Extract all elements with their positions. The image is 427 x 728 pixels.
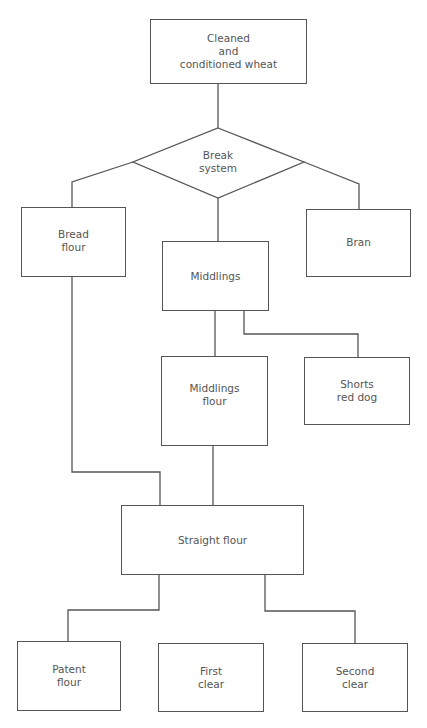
node-shorts-red-dog: Shorts red dog [304,357,410,425]
node-label: Straight flour [178,534,247,547]
node-label: Shorts red dog [337,378,377,404]
connector-middlings-to-shorts [244,310,358,357]
node-break-system-label: Break system [178,149,258,175]
node-label: Second clear [336,665,375,691]
node-label: Bread flour [58,228,89,254]
node-label: Middlings flour [190,382,240,408]
connector-break-to-bran [304,162,359,209]
node-bread-flour: Bread flour [21,207,126,277]
node-straight-flour: Straight flour [121,505,304,575]
connector-straight-to-second-clear [265,574,355,643]
connector-break-to-bread-flour [72,162,133,207]
node-label: First clear [198,665,224,691]
node-first-clear: First clear [158,643,264,712]
node-second-clear: Second clear [302,643,408,712]
node-label: Bran [346,236,371,249]
node-middlings: Middlings [162,241,269,311]
flowchart-diagram: Cleaned and conditioned wheat Break syst… [0,0,427,728]
node-label: Cleaned and conditioned wheat [180,32,277,71]
node-cleaned-conditioned-wheat: Cleaned and conditioned wheat [150,19,307,84]
node-bran: Bran [306,209,411,277]
connector-straight-to-patent-flour [68,574,159,641]
connector-bread-flour-to-straight-flour [72,276,160,505]
node-middlings-flour: Middlings flour [161,356,268,446]
node-label: Middlings [191,270,241,283]
node-patent-flour: Patent flour [17,641,121,711]
node-label: Patent flour [52,663,86,689]
